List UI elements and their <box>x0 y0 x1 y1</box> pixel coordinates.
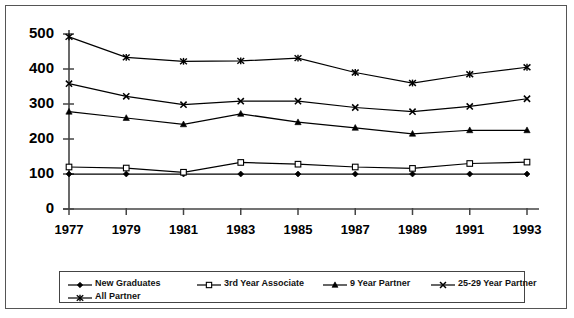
legend-item: 3rd Year Associate <box>196 276 304 290</box>
legend-marker-filled-triangle-icon <box>322 277 348 289</box>
legend-row-1: New Graduates3rd Year Associate9 Year Pa… <box>60 276 524 290</box>
legend-label: 3rd Year Associate <box>224 278 304 288</box>
x-tick-label: 1987 <box>325 222 385 237</box>
legend-row-2: All Partner <box>60 289 524 303</box>
x-tick-label: 1977 <box>39 222 99 237</box>
legend-label: 9 Year Partner <box>350 278 410 288</box>
x-tick-label: 1991 <box>440 222 500 237</box>
y-tick-label: 0 <box>8 199 54 216</box>
y-tick-label: 400 <box>8 59 54 76</box>
legend-item: 9 Year Partner <box>322 276 410 290</box>
y-tick-label: 300 <box>8 94 54 111</box>
legend-marker-asterisk-icon <box>67 290 93 302</box>
legend-label: All Partner <box>95 291 141 301</box>
legend-marker-filled-diamond-icon <box>67 277 93 289</box>
plot-area: 0100200300400500 19771979198119831985198… <box>6 6 568 268</box>
series-25-29-year-partner <box>66 81 530 115</box>
series-all-partner <box>66 33 531 86</box>
series-new-graduates <box>66 171 530 177</box>
x-tick-label: 1983 <box>211 222 271 237</box>
x-tick-label: 1985 <box>268 222 328 237</box>
series-group <box>66 33 531 177</box>
legend-label: 25-29 Year Partner <box>458 278 536 288</box>
series-9-year-partner <box>66 108 530 136</box>
x-tick-label: 1979 <box>96 222 156 237</box>
legend-item: New Graduates <box>67 276 161 290</box>
chart-frame: 0100200300400500 19771979198119831985198… <box>5 5 567 309</box>
legend-marker-cross-x-icon <box>430 277 456 289</box>
x-tick-label: 1981 <box>154 222 214 237</box>
legend-item: 25-29 Year Partner <box>430 276 536 290</box>
legend-item: All Partner <box>67 289 141 303</box>
legend-marker-open-square-icon <box>196 277 222 289</box>
chart-legend: New Graduates3rd Year Associate9 Year Pa… <box>59 271 525 303</box>
x-tick-label: 1989 <box>383 222 443 237</box>
y-tick-label: 200 <box>8 129 54 146</box>
y-tick-label: 500 <box>8 24 54 41</box>
y-tick-label: 100 <box>8 164 54 181</box>
legend-label: New Graduates <box>95 278 161 288</box>
x-tick-label: 1993 <box>497 222 557 237</box>
